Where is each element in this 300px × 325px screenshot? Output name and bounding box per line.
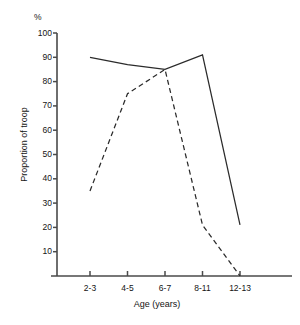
series-line-solid-series	[90, 55, 240, 225]
axis-lines	[51, 33, 292, 276]
series-line-dashed-series	[90, 69, 240, 276]
data-series-group	[90, 55, 240, 276]
tick-marks	[53, 33, 240, 276]
plot-area	[0, 0, 300, 325]
chart-container: % Proportion of troop Age (years) 100908…	[0, 0, 300, 325]
